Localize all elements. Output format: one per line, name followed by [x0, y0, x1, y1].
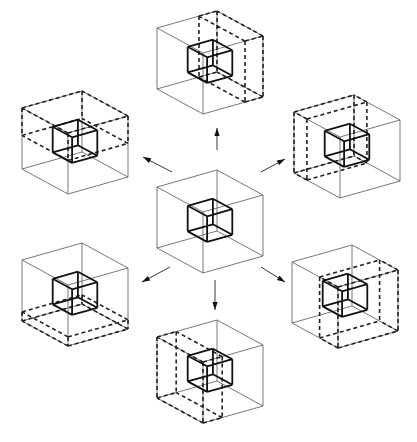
- outer-cube-wireframe: [157, 11, 263, 114]
- outer-cube-wireframe: [157, 320, 263, 423]
- arrow-down-icon: [212, 280, 217, 310]
- outer-cube-wireframe: [292, 245, 398, 348]
- cube-top: [157, 11, 263, 114]
- cube-lower-right: [292, 245, 398, 348]
- cube-upper-right: [294, 95, 400, 198]
- arrow-upper-right-icon: [261, 159, 285, 172]
- outer-cube-wireframe: [22, 243, 128, 346]
- outer-cube-wireframe: [157, 170, 263, 273]
- cube-center: [157, 170, 263, 273]
- outer-cube-wireframe: [22, 91, 128, 194]
- arrow-up-icon: [214, 128, 219, 150]
- dashed-slab-region: [157, 332, 222, 423]
- arrow-lower-left-icon: [142, 267, 170, 282]
- arrow-lower-right-icon: [261, 267, 285, 282]
- dashed-slab-region: [22, 91, 128, 160]
- cube-lower-left: [22, 243, 128, 346]
- outer-cube-wireframe: [294, 95, 400, 198]
- cube-upper-left: [22, 91, 128, 194]
- cubes-layer: [22, 11, 400, 423]
- arrow-upper-left-icon: [143, 157, 172, 172]
- cube-slab-diagram: [0, 0, 417, 442]
- cube-bottom: [157, 320, 263, 423]
